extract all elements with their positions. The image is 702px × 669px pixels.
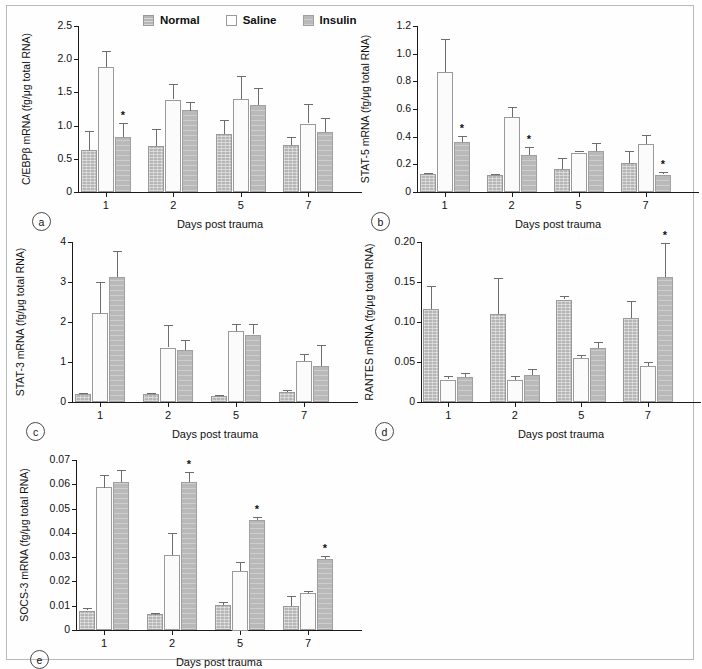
y-tick-label-b-1: 0.2 <box>369 158 411 168</box>
x-tick-label-e-3: 7 <box>288 637 328 649</box>
error-bar-b-day1-saline <box>445 39 446 72</box>
error-bar-b-day1-insulin <box>462 136 463 142</box>
bar-a-day2-normal <box>148 146 164 192</box>
x-tick-label-e-2: 5 <box>220 637 260 649</box>
y-tick-label-a-4: 2.0 <box>30 53 72 63</box>
error-bar-d-day1-normal <box>431 286 432 309</box>
x-tick-label-c-2: 5 <box>216 409 256 421</box>
y-tick-label-b-0: 0 <box>369 186 411 196</box>
bar-d-day2-saline <box>507 380 523 402</box>
bar-c-day1-saline <box>92 313 108 402</box>
y-tick-d-2 <box>417 322 421 323</box>
error-bar-c-day7-insulin <box>321 345 322 366</box>
x-tick-e-3 <box>308 631 309 635</box>
x-tick-c-0 <box>100 403 101 407</box>
error-bar-d-day5-saline <box>581 355 582 358</box>
x-axis-line-a <box>78 192 362 193</box>
error-bar-c-day1-normal <box>83 393 84 394</box>
y-tick-label-d-0: 0 <box>373 396 415 406</box>
error-bar-a-day5-saline <box>241 76 242 99</box>
error-bar-b-day7-normal <box>629 151 630 163</box>
error-bar-c-day2-saline <box>168 325 169 347</box>
error-bar-e-day1-normal <box>87 608 88 610</box>
bar-d-day1-saline <box>440 380 456 402</box>
significance-marker-e-day5-insulin: * <box>251 506 263 513</box>
y-tick-e-6 <box>72 484 76 485</box>
error-bar-b-day2-insulin <box>529 147 530 155</box>
bar-d-day5-insulin <box>590 348 606 402</box>
y-tick-label-a-0: 0 <box>30 186 72 196</box>
bar-d-day1-insulin <box>457 377 473 402</box>
panel-d: 00.050.100.150.20RANTES mRNA (fg/μg tota… <box>355 228 693 434</box>
bar-d-day7-saline <box>640 366 656 402</box>
plot-area-d: 00.050.100.150.20RANTES mRNA (fg/μg tota… <box>355 228 693 434</box>
bar-a-day5-insulin <box>250 105 266 192</box>
error-bar-a-day1-insulin <box>123 123 124 137</box>
error-bar-c-day1-insulin <box>117 251 118 277</box>
plot-area-c: 01234STAT-3 mRNA (fg/μg total RNA)1257Da… <box>14 228 354 434</box>
bar-b-day2-saline <box>504 117 520 192</box>
bar-e-day1-normal <box>79 611 95 630</box>
x-tick-label-a-1: 2 <box>153 199 193 211</box>
bar-c-day7-insulin <box>313 366 329 402</box>
x-tick-label-e-1: 2 <box>152 637 192 649</box>
error-bar-d-day5-normal <box>564 296 565 299</box>
error-bar-e-day5-insulin <box>257 517 258 520</box>
y-tick-d-3 <box>417 282 421 283</box>
y-tick-label-e-5: 0.05 <box>28 503 70 513</box>
bar-e-day7-normal <box>283 606 299 630</box>
error-bar-c-day5-normal <box>219 395 220 396</box>
x-tick-e-1 <box>172 631 173 635</box>
bar-d-day7-normal <box>623 318 639 402</box>
y-tick-d-0 <box>417 402 421 403</box>
y-tick-a-5 <box>74 26 78 27</box>
y-tick-label-c-2: 2 <box>24 316 66 326</box>
x-tick-c-2 <box>236 403 237 407</box>
error-bar-a-day5-normal <box>224 120 225 134</box>
y-tick-label-e-3: 0.03 <box>28 551 70 561</box>
bar-a-day1-saline <box>98 67 114 192</box>
bar-c-day5-insulin <box>245 335 261 402</box>
significance-marker-d-day7-insulin: * <box>659 232 671 239</box>
bar-e-day1-saline <box>96 487 112 630</box>
y-tick-label-e-4: 0.04 <box>28 527 70 537</box>
error-bar-a-day5-insulin <box>258 88 259 105</box>
y-tick-e-5 <box>72 509 76 510</box>
error-bar-e-day1-insulin <box>121 470 122 482</box>
significance-marker-a-day1-insulin: * <box>117 112 129 119</box>
x-tick-e-0 <box>104 631 105 635</box>
y-tick-label-a-5: 2.5 <box>30 20 72 30</box>
x-tick-d-0 <box>448 403 449 407</box>
bar-a-day7-insulin <box>317 132 333 192</box>
error-bar-b-day2-normal <box>495 174 496 175</box>
x-tick-label-a-2: 5 <box>221 199 261 211</box>
x-tick-b-2 <box>579 193 580 197</box>
x-tick-label-d-1: 2 <box>495 409 535 421</box>
x-tick-label-b-3: 7 <box>626 199 666 211</box>
bar-d-day5-saline <box>573 358 589 402</box>
significance-marker-b-day2-insulin: * <box>523 136 535 143</box>
y-tick-label-a-3: 1.5 <box>30 86 72 96</box>
y-tick-label-b-5: 1.0 <box>369 48 411 58</box>
y-tick-label-e-0: 0 <box>28 624 70 634</box>
error-bar-e-day2-normal <box>155 613 156 615</box>
bar-c-day2-saline <box>160 348 176 402</box>
x-tick-a-3 <box>308 193 309 197</box>
error-bar-a-day7-insulin <box>325 118 326 132</box>
error-bar-b-day5-insulin <box>596 143 597 151</box>
x-tick-label-d-2: 5 <box>561 409 601 421</box>
y-tick-d-1 <box>417 362 421 363</box>
y-tick-e-7 <box>72 460 76 461</box>
y-tick-c-0 <box>68 402 72 403</box>
y-axis-line-c <box>72 242 73 403</box>
bar-c-day2-insulin <box>177 350 193 402</box>
bar-e-day7-saline <box>300 593 316 630</box>
x-tick-b-1 <box>512 193 513 197</box>
bar-e-day1-insulin <box>113 482 129 630</box>
x-tick-a-2 <box>241 193 242 197</box>
panel-a: 00.51.01.52.02.5C/EBPβ mRNA (fg/μg total… <box>14 8 354 224</box>
error-bar-e-day7-insulin <box>325 556 326 559</box>
bar-b-day1-saline <box>437 72 453 192</box>
error-bar-d-day2-normal <box>498 278 499 314</box>
error-bar-e-day2-insulin <box>189 472 190 482</box>
